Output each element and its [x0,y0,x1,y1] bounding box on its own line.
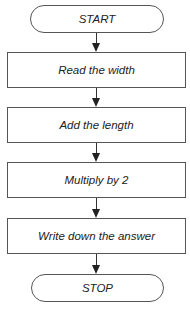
process-step-read-width: Read the width [7,52,186,88]
process-step-write-answer: Write down the answer [7,218,186,254]
start-terminal: START [30,5,164,33]
start-label: START [79,13,116,25]
step-label: Add the length [59,119,133,131]
step-label: Read the width [58,64,135,76]
stop-label: STOP [82,282,113,294]
process-step-add-length: Add the length [7,107,186,143]
step-label: Multiply by 2 [65,174,129,186]
process-step-multiply: Multiply by 2 [7,162,186,198]
stop-terminal: STOP [31,274,164,302]
step-label: Write down the answer [38,230,155,242]
